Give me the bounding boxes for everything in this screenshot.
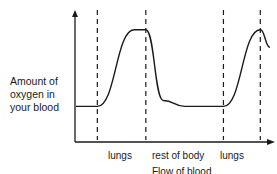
- x-axis-arrow: [267, 139, 275, 145]
- x-axis-label: Flow of blood: [152, 166, 211, 174]
- region-label-rest-of-body: rest of body: [152, 150, 204, 161]
- region-label-lungs-2: lungs: [220, 150, 244, 161]
- y-axis-arrow: [72, 10, 78, 17]
- region-label-lungs-1: lungs: [108, 150, 132, 161]
- diagram-canvas: lungs rest of body lungs Flow of blood: [0, 0, 277, 174]
- oxygen-curve: [76, 30, 270, 107]
